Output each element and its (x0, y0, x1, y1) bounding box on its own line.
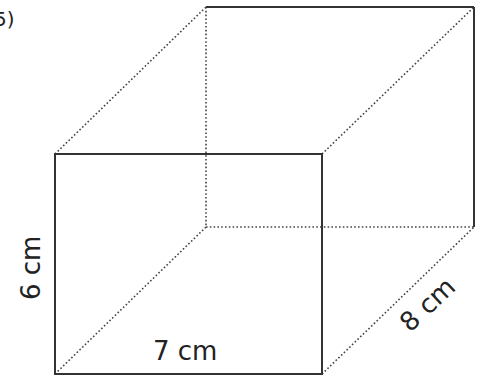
edge-top-left-depth (55, 7, 206, 154)
question-number: 5) (0, 7, 15, 31)
edge-top-right-depth (322, 7, 474, 154)
back-visible-edges (206, 7, 474, 227)
cuboid-diagram: 5) 6 cm 7 cm 8 cm (0, 0, 479, 376)
depth-label: 8 cm (394, 272, 462, 338)
height-label: 6 cm (16, 236, 46, 300)
width-label: 7 cm (153, 336, 217, 366)
